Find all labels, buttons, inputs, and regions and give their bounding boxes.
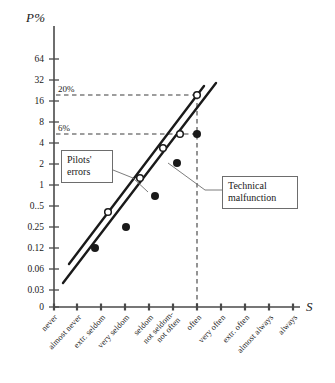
y-tick-label: 1 bbox=[10, 180, 44, 190]
data-points-technical-malfunction bbox=[91, 130, 201, 252]
y-tick-label: 0 bbox=[10, 302, 44, 312]
y-tick-label: 0.25 bbox=[4, 222, 44, 232]
y-tick-label: 64 bbox=[10, 54, 44, 64]
threshold-label-20-percent: 20% bbox=[58, 84, 75, 94]
callout-technical-malfunction: Technical malfunction bbox=[222, 176, 298, 209]
y-tick-label: 4 bbox=[10, 138, 44, 148]
y-tick-label: 32 bbox=[10, 75, 44, 85]
data-point-filled bbox=[193, 130, 201, 138]
x-axis-title: S bbox=[306, 299, 313, 315]
data-point-open bbox=[137, 175, 144, 182]
data-point-filled bbox=[151, 192, 159, 200]
y-tick-label: 0.03 bbox=[4, 285, 44, 295]
data-point-filled bbox=[122, 223, 130, 231]
callout-pilots-line2: errors bbox=[67, 166, 107, 178]
y-axis-title: P% bbox=[26, 10, 45, 26]
data-point-open bbox=[160, 145, 167, 152]
y-tick-label: 8 bbox=[10, 117, 44, 127]
data-point-open bbox=[177, 131, 184, 138]
chart-container: P% S 64 32 16 8 4 2 1 0..5 0.25 0.12 0.0… bbox=[0, 0, 335, 383]
leader-line-technical-malfunction bbox=[168, 163, 222, 190]
callout-pilots-line1: Pilots' bbox=[67, 154, 107, 166]
data-point-open bbox=[105, 209, 112, 216]
y-tick-label: 0..5 bbox=[4, 201, 44, 211]
callout-technical-line1: Technical bbox=[228, 180, 292, 192]
y-tick-label: 0.06 bbox=[4, 264, 44, 274]
y-tick-label: 16 bbox=[10, 96, 44, 106]
callout-technical-line2: malfunction bbox=[228, 192, 292, 204]
threshold-label-6-percent: 6% bbox=[58, 123, 70, 133]
y-tick-label: 2 bbox=[10, 159, 44, 169]
callout-pilots-errors: Pilots' errors bbox=[61, 150, 113, 183]
data-point-filled bbox=[173, 159, 181, 167]
data-point-open bbox=[194, 92, 201, 99]
trend-line-technical-malfunction bbox=[63, 83, 216, 283]
y-tick-label: 0.12 bbox=[4, 243, 44, 253]
data-point-filled bbox=[91, 244, 99, 252]
